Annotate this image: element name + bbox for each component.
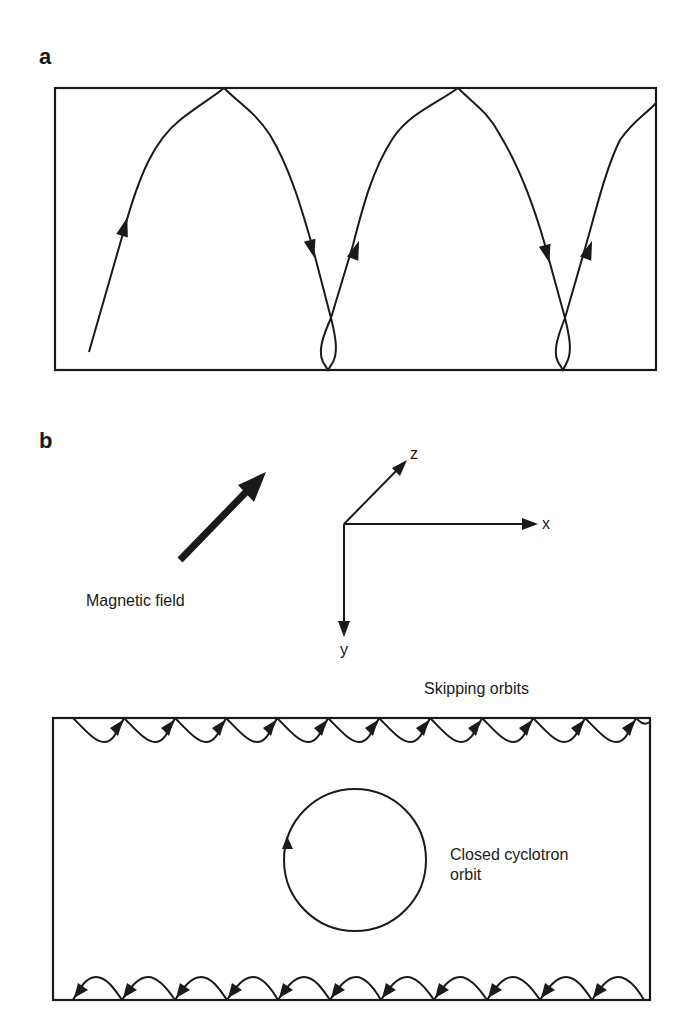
- arrow-up-right-icon: [314, 720, 327, 736]
- arrow-down-left-icon: [541, 983, 555, 998]
- z-axis-label: z: [410, 444, 418, 463]
- arrow-down-icon: [539, 244, 555, 264]
- closed-orbit-label-line1: Closed cyclotron: [450, 845, 568, 864]
- arrow-down-left-icon: [228, 983, 242, 998]
- arrow-up-icon: [347, 239, 365, 261]
- x-axis-label: x: [542, 514, 550, 533]
- magnetic-field-label: Magnetic field: [86, 591, 185, 610]
- arrow-down-left-icon: [593, 983, 607, 998]
- arrow-up-icon: [580, 239, 598, 261]
- coordinate-axes: [338, 460, 538, 637]
- top-skipping-orbits: [73, 718, 650, 742]
- arrow-down-left-icon: [331, 983, 345, 998]
- panel-a-boundary-box: [55, 88, 656, 370]
- arrow-up-right-icon: [161, 720, 174, 736]
- panel-a-arrowheads: [116, 216, 597, 264]
- arrow-up-right-icon: [571, 720, 584, 736]
- closed-cyclotron-orbit: [284, 789, 426, 931]
- magnetic-field-arrow-icon: [180, 472, 266, 560]
- arrow-up-icon: [116, 216, 133, 238]
- arrow-down-left-icon: [435, 983, 449, 998]
- arrow-down-left-icon: [123, 983, 137, 998]
- arrow-down-left-icon: [74, 983, 88, 998]
- top-skipping-arrowheads: [110, 720, 635, 736]
- arrow-up-right-icon: [212, 720, 225, 736]
- x-axis-arrowhead-icon: [522, 518, 538, 530]
- arrow-up-right-icon: [263, 720, 276, 736]
- arrow-up-right-icon: [468, 720, 481, 736]
- arrow-up-right-icon: [110, 720, 123, 736]
- arrow-down-left-icon: [279, 983, 293, 998]
- panel-a-trajectory: [89, 88, 656, 370]
- arrow-down-left-icon: [382, 983, 396, 998]
- arrow-up-right-icon: [519, 720, 532, 736]
- skipping-orbits-label: Skipping orbits: [424, 679, 529, 698]
- arrow-down-left-icon: [488, 983, 502, 998]
- z-axis: [344, 469, 398, 524]
- closed-orbit-label-line2: orbit: [450, 865, 481, 884]
- bottom-skipping-orbits: [73, 977, 644, 1000]
- arrow-down-left-icon: [176, 983, 190, 998]
- arrow-up-right-icon: [622, 720, 635, 736]
- diagram-canvas: [0, 0, 688, 1033]
- panel-a-diagram: [55, 88, 656, 370]
- arrow-down-icon: [304, 239, 320, 259]
- y-axis-arrowhead-icon: [338, 621, 350, 637]
- orbit-arrow-up-icon: [282, 836, 293, 849]
- arrow-up-right-icon: [365, 720, 378, 736]
- y-axis-label: y: [340, 640, 348, 659]
- arrow-up-right-icon: [416, 720, 429, 736]
